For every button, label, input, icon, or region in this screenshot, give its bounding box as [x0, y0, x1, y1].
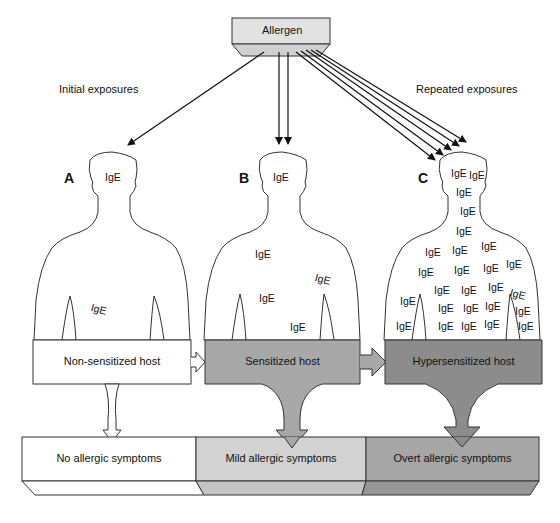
repeated-exposures-caption: Repeated exposures — [416, 83, 518, 95]
host-label-c: Hypersensitized host — [385, 355, 542, 367]
ige-marker: IgE — [454, 264, 470, 276]
ige-marker: IgE — [461, 284, 477, 296]
ige-marker: IgE — [485, 300, 501, 312]
host-label-a: Non-sensitized host — [33, 355, 191, 367]
panel-letter-c: C — [418, 170, 428, 186]
arrow-b-to-c — [360, 348, 386, 376]
ige-marker: IgE — [259, 292, 275, 304]
ige-marker: IgE — [434, 284, 450, 296]
ige-marker: IgE — [438, 320, 454, 332]
ige-marker: IgE — [438, 302, 454, 314]
ige-marker: IgE — [418, 266, 434, 278]
ige-marker: IgE — [488, 281, 504, 293]
ige-marker: IgE — [483, 262, 499, 274]
arrow-a-to-b — [191, 352, 205, 372]
ige-marker: IgE — [484, 318, 500, 330]
host-label-b: Sensitized host — [205, 355, 360, 367]
ige-marker: IgE — [456, 186, 472, 198]
allergen-label: Allergen — [262, 24, 302, 36]
diagram-canvas — [0, 0, 560, 523]
ige-marker: IgE — [273, 171, 289, 183]
exposure-arrows — [128, 50, 466, 160]
ige-marker: IgE — [290, 321, 306, 333]
ige-marker: IgE — [451, 167, 467, 179]
ige-marker: IgE — [506, 258, 522, 270]
ige-marker: IgE — [105, 171, 121, 183]
ige-marker: IgE — [255, 248, 271, 260]
ige-marker: IgE — [460, 205, 476, 217]
initial-exposures-caption: Initial exposures — [59, 83, 139, 95]
ige-marker: IgE — [481, 240, 497, 252]
ige-marker: IgE — [461, 320, 477, 332]
panel-letter-a: A — [64, 170, 74, 186]
ige-marker: IgE — [400, 295, 416, 307]
panel-letter-b: B — [239, 170, 249, 186]
outcome-label-c: Overt allergic symptoms — [366, 452, 539, 464]
ige-marker: IgE — [456, 225, 472, 237]
ige-marker: IgE — [396, 320, 412, 332]
ige-marker: IgE — [518, 320, 534, 332]
ige-marker: IgE — [515, 305, 531, 317]
ige-marker: IgE — [469, 169, 485, 181]
ige-marker: IgE — [425, 246, 441, 258]
ige-marker: IgE — [463, 302, 479, 314]
outcome-label-a: No allergic symptoms — [22, 452, 196, 464]
outcome-label-b: Mild allergic symptoms — [196, 452, 366, 464]
ige-marker: IgE — [452, 244, 468, 256]
